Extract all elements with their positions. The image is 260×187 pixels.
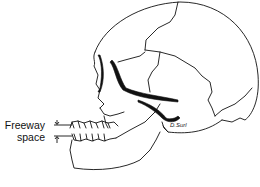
skull-illustration bbox=[0, 0, 260, 187]
skull-diagram bbox=[0, 0, 260, 187]
freeway-label-line2: space bbox=[3, 132, 45, 143]
freeway-space-indicator bbox=[54, 120, 72, 143]
freeway-label-line1: Freeway bbox=[3, 120, 45, 131]
artist-signature: D.Surl bbox=[170, 122, 187, 128]
